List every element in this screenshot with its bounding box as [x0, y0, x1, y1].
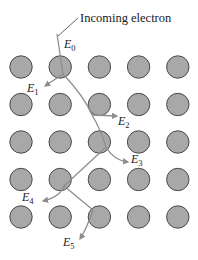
energy-label-e0: E0 — [63, 37, 76, 53]
atom-r5-c2 — [49, 206, 71, 228]
atom-r2-c3 — [88, 93, 110, 115]
energy-label-e1: E1 — [26, 81, 39, 97]
atom-r5-c1 — [10, 206, 32, 228]
atom-r1-c3 — [88, 56, 110, 78]
atom-r2-c1 — [10, 93, 32, 115]
incoming-electron-label: Incoming electron — [80, 11, 172, 25]
atom-r5-c5 — [167, 206, 189, 228]
electron-scattering-diagram: Incoming electron E0 E1 E2 E3 E4 E5 — [0, 0, 198, 260]
branch-e3 — [106, 147, 128, 162]
atom-r2-c5 — [167, 93, 189, 115]
title-leader-line — [57, 18, 78, 37]
energy-label-e3: E3 — [130, 152, 143, 168]
main-path-4 — [64, 186, 93, 210]
atom-r1-c1 — [10, 56, 32, 78]
atom-r4-c3 — [88, 168, 110, 190]
branch-e2 — [92, 115, 117, 116]
energy-label-e5: E5 — [62, 235, 75, 251]
atom-r3-c1 — [10, 131, 32, 153]
atom-r3-c5 — [167, 131, 189, 153]
energy-label-e4: E4 — [21, 190, 34, 206]
atom-r3-c2 — [49, 131, 71, 153]
atom-r2-c4 — [127, 93, 149, 115]
atom-r1-c4 — [127, 56, 149, 78]
atom-r4-c2 — [49, 168, 71, 190]
atom-r2-c2 — [49, 93, 71, 115]
atom-r1-c5 — [167, 56, 189, 78]
atom-r4-c4 — [127, 168, 149, 190]
atom-r4-c1 — [10, 168, 32, 190]
atom-r4-c5 — [167, 168, 189, 190]
energy-label-e2: E2 — [117, 114, 130, 130]
atom-r3-c4 — [127, 131, 149, 153]
atom-lattice — [10, 56, 189, 228]
atom-r5-c4 — [127, 206, 149, 228]
